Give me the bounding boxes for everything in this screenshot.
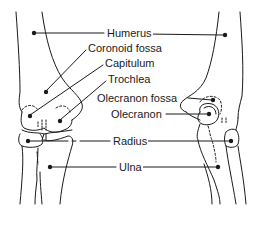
humerus-left-edge — [180, 12, 219, 112]
label-olecranon-fossa: Olecranon fossa — [96, 92, 178, 104]
coronoid-fossa-dot — [44, 90, 48, 94]
capitulum-dot — [28, 114, 32, 118]
label-ulna: Ulna — [118, 161, 143, 173]
humerus-dot-right — [223, 33, 227, 37]
elbow-anatomy-diagram: Humerus Coronoid fossa Capitulum Trochle… — [0, 0, 259, 232]
anterior-view — [16, 12, 82, 204]
humerus-dot-left — [32, 31, 36, 35]
olecranon-fossa-dot — [211, 98, 215, 102]
humerus-right-edge — [42, 12, 82, 120]
label-olecranon: Olecranon — [110, 108, 163, 120]
radius-dot-right — [229, 139, 233, 143]
humerus-left-edge — [16, 12, 22, 112]
radius-dot-left — [26, 139, 30, 143]
posterior-view — [180, 12, 246, 204]
label-trochlea: Trochlea — [107, 73, 151, 85]
trochlea-dot — [58, 119, 62, 123]
humerus-right-edge — [238, 12, 243, 118]
ulna-dot-right — [216, 165, 220, 169]
label-coronoid-fossa: Coronoid fossa — [87, 42, 163, 54]
label-humerus: Humerus — [106, 27, 153, 39]
ulna-dot-left — [48, 165, 52, 169]
label-radius: Radius — [112, 135, 148, 147]
olecranon-dot — [207, 112, 211, 116]
label-capitulum: Capitulum — [104, 57, 156, 69]
